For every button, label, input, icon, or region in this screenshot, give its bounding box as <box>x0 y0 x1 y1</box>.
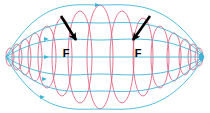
figure-background <box>0 0 210 113</box>
force-label-left: F <box>63 47 70 59</box>
force-label-right: F <box>135 47 142 59</box>
wave-envelope-diagram: F F <box>0 0 210 113</box>
figure-root: F F <box>0 0 210 113</box>
